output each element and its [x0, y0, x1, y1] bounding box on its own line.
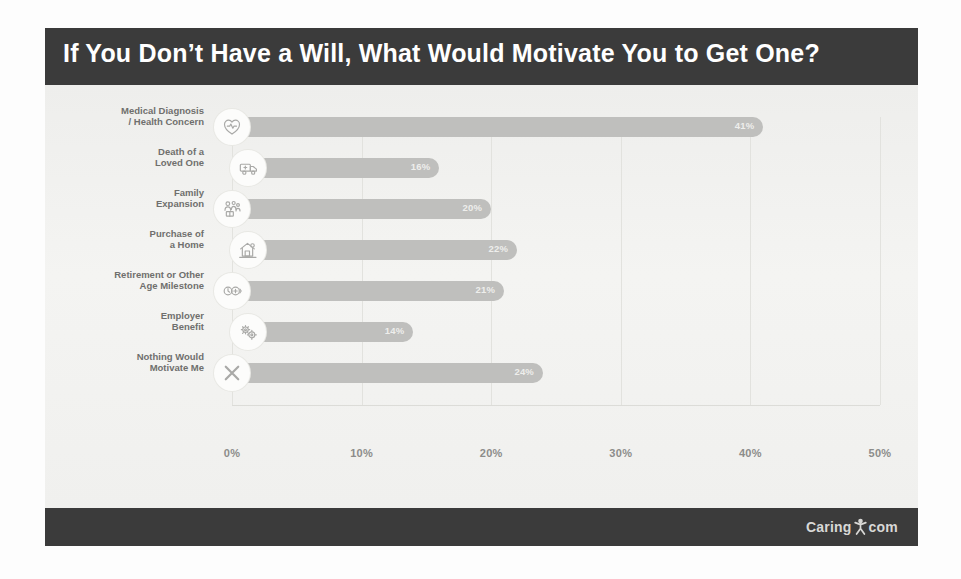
bar-value-label-1: 16%: [411, 161, 431, 172]
category-label-line2: Benefit: [161, 321, 204, 332]
header-band: If You Don’t Have a Will, What Would Mot…: [45, 28, 918, 85]
bar-value-label-0: 41%: [735, 120, 755, 131]
category-label-2: FamilyExpansion: [156, 187, 204, 209]
family-group-icon: [214, 191, 250, 227]
person-figure-icon: [853, 518, 868, 535]
category-axis: [45, 174, 172, 474]
page-title: If You Don’t Have a Will, What Would Mot…: [63, 39, 820, 68]
category-label-1: Death of aLoved One: [155, 146, 204, 168]
category-label-line2: Loved One: [155, 157, 204, 168]
x-cross-icon: [214, 355, 250, 391]
gridline-40: [750, 117, 751, 405]
category-label-line2: Age Milestone: [114, 280, 204, 291]
footer-band: Caring com: [45, 508, 918, 546]
category-label-line2: Expansion: [156, 198, 204, 209]
logo-text-left: Caring: [806, 519, 852, 535]
category-label-line1: Employer: [161, 310, 204, 321]
bar-2: 20%: [232, 199, 491, 219]
x-tick-label-30: 30%: [609, 447, 632, 459]
logo-text-right: com: [869, 519, 898, 535]
x-tick-label-0: 0%: [224, 447, 241, 459]
bar-value-label-4: 21%: [476, 284, 496, 295]
category-label-line1: Family: [156, 187, 204, 198]
category-label-line2: a Home: [150, 239, 204, 250]
category-label-5: EmployerBenefit: [161, 310, 204, 332]
gridline-20: [491, 117, 492, 405]
bar-0: 41%: [232, 117, 763, 137]
bar-6: 24%: [232, 363, 543, 383]
category-label-line1: Nothing Would: [137, 351, 204, 362]
category-label-line1: Death of a: [155, 146, 204, 157]
caring-com-logo[interactable]: Caring com: [806, 518, 898, 535]
bar-value-label-5: 14%: [385, 325, 405, 336]
retirement-clock-icon: [214, 273, 250, 309]
x-tick-label-20: 20%: [480, 447, 503, 459]
ambulance-icon: [230, 150, 266, 186]
x-tick-label-40: 40%: [739, 447, 762, 459]
bar-value-label-6: 24%: [514, 366, 534, 377]
bar-value-label-2: 20%: [463, 202, 483, 213]
heart-pulse-icon: [214, 109, 250, 145]
gridline-30: [621, 117, 622, 405]
bar-3: 22%: [232, 240, 517, 260]
category-label-4: Retirement or OtherAge Milestone: [114, 269, 204, 291]
x-tick-label-50: 50%: [869, 447, 892, 459]
house-icon: [230, 232, 266, 268]
x-tick-label-10: 10%: [350, 447, 373, 459]
plot-area: 41%16%20%22%21%14%24%: [232, 117, 880, 405]
axis-line-bottom: [232, 405, 880, 406]
category-label-line1: Medical Diagnosis: [121, 105, 204, 116]
category-label-line1: Retirement or Other: [114, 269, 204, 280]
category-label-line2: / Health Concern: [121, 116, 204, 127]
category-label-6: Nothing WouldMotivate Me: [137, 351, 204, 373]
category-label-line2: Motivate Me: [137, 362, 204, 373]
gridline-50: [880, 117, 881, 405]
gears-icon: [230, 314, 266, 350]
chart-canvas: 41%16%20%22%21%14%24% 0%10%20%30%40%50% …: [45, 85, 918, 508]
x-axis-ticks: 0%10%20%30%40%50%: [232, 447, 918, 465]
category-label-0: Medical Diagnosis/ Health Concern: [121, 105, 204, 127]
category-label-3: Purchase ofa Home: [150, 228, 204, 250]
category-label-line1: Purchase of: [150, 228, 204, 239]
infographic-card: If You Don’t Have a Will, What Would Mot…: [45, 28, 918, 546]
bar-value-label-3: 22%: [488, 243, 508, 254]
bar-4: 21%: [232, 281, 504, 301]
